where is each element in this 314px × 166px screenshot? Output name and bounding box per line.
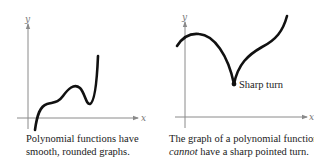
right-caption-line2: cannot have a sharp pointed turn. — [169, 146, 314, 159]
left-caption-line2: smooth, rounded graphs. — [26, 146, 139, 159]
smooth-polynomial-curve — [35, 56, 98, 130]
right-y-axis-label: y — [181, 12, 188, 22]
sharp-turn-point — [232, 82, 237, 87]
right-caption: The graph of a polynomial function canno… — [169, 133, 314, 158]
right-caption-line1: The graph of a polynomial function — [169, 133, 314, 146]
sharp-turn-label: Sharp turn — [239, 79, 284, 90]
right-x-axis-label: x — [309, 112, 314, 122]
left-caption-line1: Polynomial functions have — [26, 133, 139, 146]
right-graph: y x Sharp turn — [175, 12, 314, 128]
right-caption-line2-rest: have a sharp pointed turn. — [198, 146, 309, 157]
left-x-axis-label: x — [141, 113, 146, 123]
left-caption: Polynomial functions have smooth, rounde… — [26, 133, 139, 158]
cannot-emphasis: cannot — [169, 146, 198, 157]
left-graph: y x — [17, 14, 146, 130]
left-y-axis-label: y — [24, 14, 31, 24]
cusp-curve — [177, 16, 287, 84]
